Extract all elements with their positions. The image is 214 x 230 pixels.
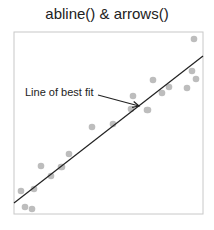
data-point	[193, 76, 200, 83]
data-point	[29, 206, 36, 213]
data-point	[189, 68, 196, 75]
data-point	[89, 124, 96, 131]
plot-box	[14, 32, 203, 214]
data-point	[150, 77, 157, 84]
annotation-label: Line of best fit	[25, 86, 94, 98]
data-point	[145, 107, 152, 114]
best-fit-line	[14, 56, 203, 203]
data-points	[18, 36, 200, 213]
data-point	[130, 93, 137, 100]
data-point	[38, 163, 45, 170]
data-point	[66, 151, 73, 158]
annotation: Line of best fit	[25, 86, 139, 107]
data-point	[159, 90, 166, 97]
data-point	[184, 85, 191, 92]
data-point	[22, 204, 29, 211]
data-point	[191, 36, 198, 43]
scatter-plot: Line of best fit	[0, 0, 214, 230]
data-point	[18, 188, 25, 195]
